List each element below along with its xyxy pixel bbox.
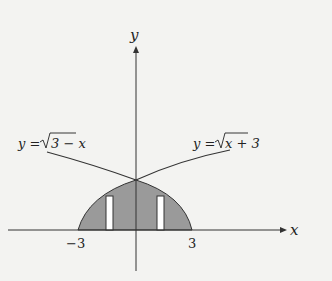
- left-rectangle: [106, 196, 113, 230]
- tick-label-3: 3: [188, 236, 196, 251]
- y-axis-label: y: [129, 26, 139, 44]
- left-curve-label-radicand: 3 − x: [51, 136, 86, 151]
- x-axis-arrow-icon: [280, 227, 287, 233]
- plot: y x −3 3 y = 3 − x y = x + 3: [0, 0, 332, 281]
- x-axis-label: x: [290, 221, 299, 239]
- shaded-region: [78, 180, 192, 230]
- right-rectangle: [157, 196, 164, 230]
- left-curve-label-prefix: y =: [17, 136, 40, 151]
- tick-label-neg3: −3: [66, 236, 85, 251]
- y-axis-arrow-icon: [133, 46, 139, 53]
- curve-left: [47, 152, 136, 180]
- right-curve-label-radicand: x + 3: [225, 136, 260, 151]
- diagram: y x −3 3 y = 3 − x y = x + 3: [0, 0, 332, 281]
- right-curve-label-prefix: y =: [192, 136, 215, 151]
- curve-right: [136, 150, 230, 180]
